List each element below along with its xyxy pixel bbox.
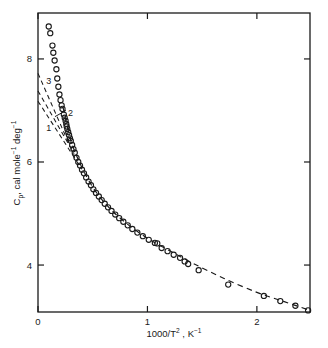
theory-line-label-1: 1 [46,123,51,133]
x-tick-label: 2 [254,316,259,327]
x-tick-label: 1 [145,316,150,327]
plot-background [0,0,328,348]
x-axis-title: 1000/T2 , K−1 [146,327,201,339]
x-tick-label: 0 [35,316,40,327]
theory-line-label-3: 3 [46,76,51,86]
figure-root: 012 468 123 1000/T2 , K−1 Cp, cal mole−1… [0,0,328,348]
theory-line-label-2: 2 [68,108,73,118]
y-tick-label: 6 [27,156,32,167]
y-tick-label: 8 [27,53,32,64]
scatter-plot: 012 468 123 1000/T2 , K−1 Cp, cal mole−1… [0,0,328,348]
y-tick-label: 4 [27,260,32,271]
